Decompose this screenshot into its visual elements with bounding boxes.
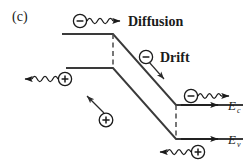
ec-subscript: c [237,106,241,115]
valence-band-curve [66,68,243,139]
hole-photon-bottom-group [160,145,205,158]
band-diagram-canvas: Diffusion Drift [0,0,249,167]
electron-drift-group: Drift [139,50,189,79]
band-diagram-figure: Diffusion Drift [0,0,249,167]
hole-transport-group [87,96,113,127]
photon-squiggle-hole-left [32,76,58,81]
hole-direction-arrow [87,96,104,113]
electron-photon-right-group [184,89,229,102]
ec-symbol: E [227,98,236,113]
photon-squiggle-diffusion [87,18,113,23]
ev-subscript: v [237,140,241,149]
conduction-band-curve [62,34,243,105]
hole-photon-left-group [25,72,72,85]
electron-diffusion-group: Diffusion [73,14,183,29]
photon-squiggle-hole-bottom [167,150,191,155]
photon-squiggle-electron-right [198,94,221,99]
valence-band-label: E v [227,132,241,149]
panel-tag: (c) [12,9,28,25]
diffusion-label: Diffusion [128,14,183,29]
ev-symbol: E [227,132,236,147]
drift-label: Drift [160,50,190,65]
conduction-band-label: E c [227,98,241,115]
